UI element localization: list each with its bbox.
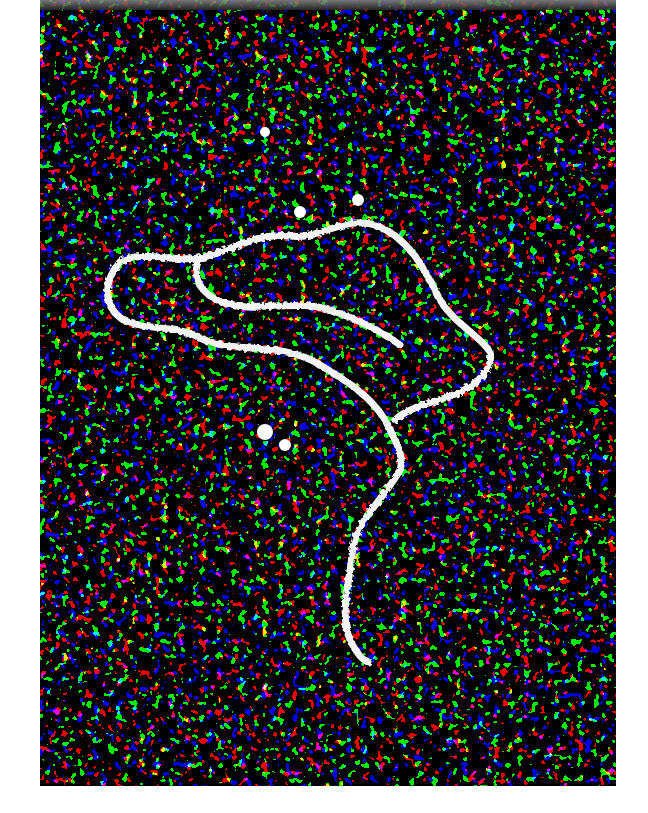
grain-texture bbox=[40, 0, 616, 786]
micrograph-canvas bbox=[40, 0, 616, 786]
micrograph-image bbox=[40, 0, 616, 786]
top-edge-artifact bbox=[40, 0, 616, 10]
